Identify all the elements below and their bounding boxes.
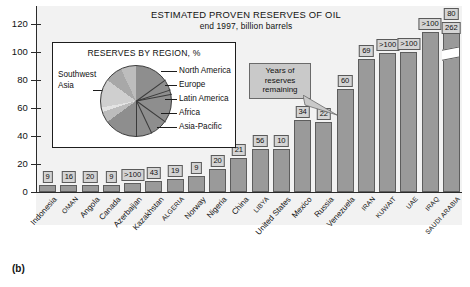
bar-column-kuwait: >100 — [379, 6, 396, 192]
x-label-text: LIBYA — [252, 195, 270, 214]
pie-label-southwest-asia-line1: Southwest — [58, 70, 96, 81]
bar-column-venezuela: 60 — [337, 6, 354, 192]
callout-years-of-reserves: Years of reserves remaining — [249, 63, 311, 99]
y-tick-label-80: 80 — [17, 74, 28, 85]
pie-label-southwest-asia-line2: Asia — [58, 81, 96, 92]
pie-label-europe: Europe — [179, 80, 205, 89]
bar-value-box-libya: 56 — [253, 135, 267, 147]
x-label-text: UAE — [404, 195, 419, 210]
bar-column-united-states: 10 — [273, 6, 290, 192]
y-tick-label-20: 20 — [17, 158, 28, 169]
bar-value-box-iraq: >100 — [419, 18, 442, 30]
figure-letter: (b) — [12, 263, 25, 274]
x-label-text: Indonesia — [29, 195, 59, 227]
bar-value-box-venezuela: 60 — [338, 75, 352, 87]
x-label-text: China — [230, 195, 251, 217]
pie-label-southwest-asia: Southwest Asia — [58, 70, 96, 91]
callout-pointer — [303, 95, 339, 117]
figure-oil-reserves: 0 20 40 60 80 100 120 ESTIMATED PROVE — [0, 0, 470, 287]
pie-leader-europe — [165, 85, 177, 86]
bar-iraq — [422, 32, 439, 192]
pie-label-asia-pacific: Asia-Pacific — [179, 122, 222, 131]
callout-line-1: Years of — [251, 66, 309, 76]
inset-pie-panel: RESERVES BY REGION, % Southwest Asia Nor… — [52, 42, 236, 148]
pie-slice-divider — [136, 101, 137, 137]
bar-column-saudi-arabia: 26280 — [443, 6, 460, 192]
bar-value-box-united-states: 10 — [274, 135, 288, 147]
bar-column-iraq: >100 — [422, 6, 439, 192]
bar-column-uae: >100 — [400, 6, 417, 192]
bar-value-box-saudi-years: 80 — [444, 8, 458, 20]
x-label-text: OMAN — [60, 195, 79, 215]
x-label-text: KUWAIT — [374, 195, 397, 219]
pie-leader-north-america — [161, 71, 177, 72]
x-label-text: IRAQ — [423, 195, 440, 212]
bar-column-libya: 56 — [252, 6, 269, 192]
pie-leader-latin-america — [165, 99, 177, 100]
inset-title: RESERVES BY REGION, % — [53, 48, 235, 58]
bar-kuwait — [379, 53, 396, 192]
x-axis-labels: IndonesiaOMANAngolaCanadaAzerbaijanKazak… — [37, 195, 463, 285]
y-tick-label-120: 120 — [12, 18, 28, 29]
callout-line-3: remaining — [251, 85, 309, 95]
y-tick-label-60: 60 — [17, 102, 28, 113]
bar-value-box-kuwait: >100 — [376, 39, 399, 51]
x-label-text: Norway — [183, 195, 208, 221]
pie-label-latin-america: Latin America — [179, 94, 229, 103]
bar-column-iran: 69 — [358, 6, 375, 192]
bar-uae — [400, 52, 417, 192]
y-tick-label-100: 100 — [12, 46, 28, 57]
bar-value-box-iran: 69 — [359, 45, 373, 57]
y-tick-label-40: 40 — [17, 130, 28, 141]
pie-label-north-america: North America — [179, 66, 231, 75]
bar-value-box-nigeria: 20 — [210, 155, 224, 167]
pie-leader-africa — [161, 113, 177, 114]
pie-label-africa: Africa — [179, 108, 200, 117]
bar-value-box-saudi-reserves: 262 — [442, 22, 461, 34]
pie-leader-asia-pacific — [157, 127, 177, 128]
bar-value-box-uae: >100 — [397, 38, 420, 50]
callout-line-2: reserves — [251, 76, 309, 86]
x-label-text: IRAN — [360, 195, 376, 212]
y-tick-label-0: 0 — [23, 186, 28, 197]
bar-value-box-indonesia: 9 — [43, 171, 53, 183]
bar-indonesia — [39, 185, 56, 192]
